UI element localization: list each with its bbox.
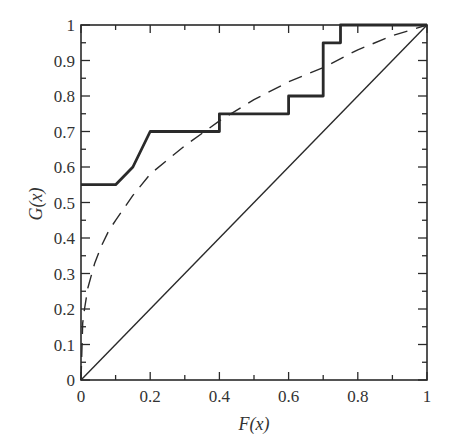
x-tick-label: 0.8 xyxy=(347,387,368,406)
y-tick-label: 1 xyxy=(67,16,76,35)
x-tick-label: 0 xyxy=(77,387,86,406)
y-axis-label: G(x) xyxy=(26,188,47,221)
y-tick-label: 0.4 xyxy=(54,229,76,248)
y-tick-label: 0 xyxy=(67,371,76,390)
y-tick-label: 0.3 xyxy=(54,265,75,284)
series-line-step xyxy=(81,25,427,185)
y-tick-label: 0.8 xyxy=(54,87,75,106)
y-tick-label: 0.5 xyxy=(54,194,75,213)
x-tick-label: 0.4 xyxy=(209,387,231,406)
x-axis-label: F(x) xyxy=(238,414,270,435)
y-tick-label: 0.2 xyxy=(54,300,75,319)
y-tick-label: 0.9 xyxy=(54,52,75,71)
series xyxy=(81,25,427,380)
y-tick-label: 0.6 xyxy=(54,158,75,177)
x-tick-label: 0.2 xyxy=(140,387,161,406)
x-axis-ticks: 00.20.40.60.81 xyxy=(77,25,432,406)
x-tick-label: 1 xyxy=(423,387,432,406)
y-tick-label: 0.1 xyxy=(54,336,75,355)
y-tick-label: 0.7 xyxy=(54,123,76,142)
x-tick-label: 0.6 xyxy=(278,387,299,406)
series-line-diagonal xyxy=(81,25,427,380)
chart: 00.20.40.60.81 00.10.20.30.40.50.60.70.8… xyxy=(0,0,452,442)
y-axis-ticks: 00.10.20.30.40.50.60.70.80.91 xyxy=(54,16,427,390)
